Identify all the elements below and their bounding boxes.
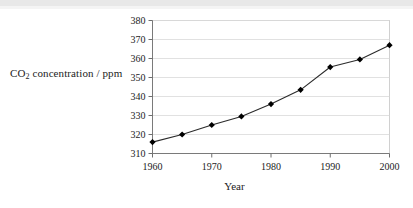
y-tick-label: 370 <box>131 34 146 45</box>
x-tick-label: 1970 <box>202 161 222 172</box>
y-tick-label: 360 <box>131 53 146 64</box>
x-tick-label: 2000 <box>380 161 400 172</box>
x-tick-label: 1980 <box>261 161 281 172</box>
plot-area: 310320330340350360370380 196019701980199… <box>0 0 413 208</box>
y-tick-label: 310 <box>131 148 146 159</box>
chart-screenshot: CO2 concentration / ppm 3103203303403503… <box>0 0 413 208</box>
y-axis-ticks: 310320330340350360370380 <box>131 15 153 159</box>
y-tick-label: 350 <box>131 72 146 83</box>
y-tick-label: 340 <box>131 91 146 102</box>
chart-svg: 310320330340350360370380 196019701980199… <box>0 0 413 208</box>
x-axis-ticks: 19601970198019902000 <box>143 154 400 172</box>
x-axis-title-text: Year <box>224 180 244 192</box>
x-tick-label: 1960 <box>143 161 163 172</box>
x-axis-title: Year <box>0 180 413 192</box>
y-tick-label: 380 <box>131 15 146 26</box>
y-tick-label: 330 <box>131 110 146 121</box>
y-tick-label: 320 <box>131 129 146 140</box>
plot-panel <box>153 21 390 154</box>
x-tick-label: 1990 <box>320 161 340 172</box>
